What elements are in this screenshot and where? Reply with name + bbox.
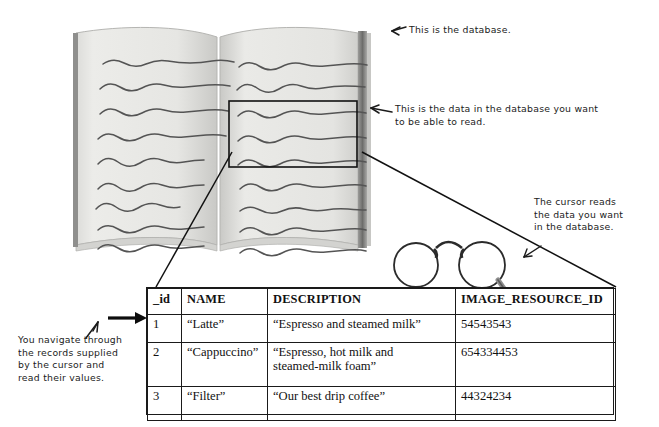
table-row: 3 “Filter” “Our best drip coffee” 443242… (148, 387, 616, 421)
cell-name: “Latte” (182, 315, 268, 343)
column-header-id: _id (148, 289, 182, 315)
cell-id: 2 (148, 343, 182, 387)
annotation-cursor: The cursor reads the data you want in th… (534, 196, 659, 234)
column-header-name: NAME (182, 289, 268, 315)
arrow-left-icon-cursor (524, 246, 541, 257)
cell-image-resource-id: 654334453 (456, 343, 616, 387)
cell-id: 1 (148, 315, 182, 343)
cell-id: 3 (148, 387, 182, 421)
table-header-row: _id NAME DESCRIPTION IMAGE_RESOURCE_ID (148, 289, 616, 315)
cell-name: “Filter” (182, 387, 268, 421)
cell-name: “Cappuccino” (182, 343, 268, 387)
table-row: 1 “Latte” “Espresso and steamed milk” 54… (148, 315, 616, 343)
annotation-data-in-database: This is the data in the database you wan… (395, 103, 657, 128)
cell-image-resource-id: 54543543 (456, 315, 616, 343)
column-header-image-resource-id: IMAGE_RESOURCE_ID (456, 289, 616, 315)
annotation-database: This is the database. (409, 24, 639, 37)
open-book-icon (62, 17, 402, 263)
cell-description: “Espresso, hot milk and steamed-milk foa… (268, 343, 456, 387)
figure-canvas: This is the database. This is the data i… (0, 0, 659, 427)
cell-description: “Espresso and steamed milk” (268, 315, 456, 343)
arrow-right-icon-row-pointer (108, 312, 147, 324)
cell-image-resource-id: 44324234 (456, 387, 616, 421)
database-table: _id NAME DESCRIPTION IMAGE_RESOURCE_ID 1… (146, 287, 614, 415)
cell-description: “Our best drip coffee” (268, 387, 456, 421)
column-header-description: DESCRIPTION (268, 289, 456, 315)
annotation-navigate-records: You navigate through the records supplie… (18, 334, 158, 384)
table-row: 2 “Cappuccino” “Espresso, hot milk and s… (148, 343, 616, 387)
